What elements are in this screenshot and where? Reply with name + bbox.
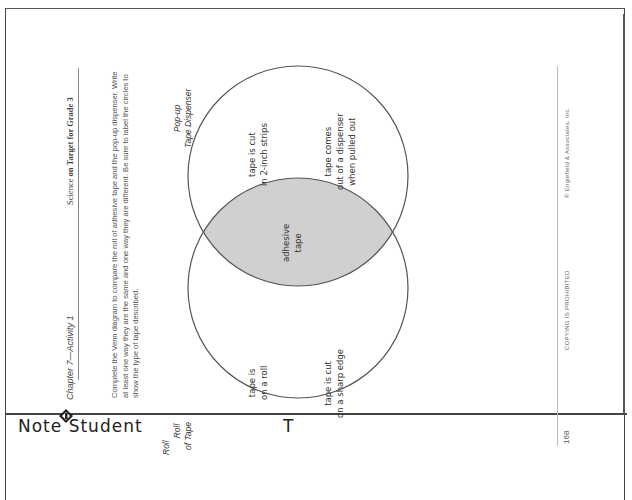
item-line: tape is cut <box>246 123 258 186</box>
page-number: 168 <box>562 431 571 444</box>
footer-rule <box>557 66 558 446</box>
venn-overlap-text: adhesive tape <box>280 224 304 262</box>
roll-label-line2: of Tape <box>183 422 194 450</box>
venn-item-roll-1: tape is on a roll <box>246 366 270 400</box>
item-line: when pulled out <box>346 113 358 190</box>
venn-item-roll-2: tape is cut on a sharp edge <box>322 349 346 418</box>
bottom-note-left: Note Student <box>18 416 143 436</box>
roll-of-tape-label-block: Roll of Tape <box>172 422 194 450</box>
popup-label-line2: Tape Dispenser <box>183 89 194 148</box>
roll-label-line1: Roll <box>172 422 183 440</box>
item-line: tape comes <box>322 113 334 190</box>
item-line: on a roll <box>258 366 270 400</box>
item-line: on a sharp edge <box>334 349 346 418</box>
item-line: out of a dispenser <box>334 113 346 190</box>
venn-item-popup-1: tape is cut in 2-inch strips <box>246 123 270 186</box>
item-line: in 2-inch strips <box>258 123 270 186</box>
venn-overlap-region <box>188 178 408 398</box>
copyright-notice: © Englefield & Associates, Inc. <box>564 107 570 198</box>
popup-dispenser-label-block: Pop-up Tape Dispenser <box>172 89 194 148</box>
item-line: tape <box>292 224 304 262</box>
item-line: adhesive <box>280 224 292 262</box>
label-line: Roll <box>161 440 172 455</box>
popup-label-line1: Pop-up <box>172 89 183 148</box>
bottom-note-right: T <box>283 416 293 436</box>
item-line: tape is <box>246 366 258 400</box>
venn-item-popup-2: tape comes out of a dispenser when pulle… <box>322 113 358 190</box>
item-line: tape is cut <box>322 349 334 418</box>
copying-notice: COPYING IS PROHIBITED <box>564 270 570 350</box>
